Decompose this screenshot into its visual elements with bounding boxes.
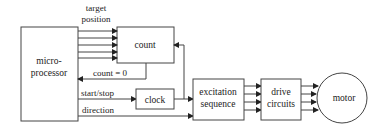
phase-bus-2 xyxy=(301,86,318,110)
target-position-label-line1: target xyxy=(86,3,107,13)
count-label: count xyxy=(134,40,155,50)
excitation-label-line2: sequence xyxy=(201,99,236,109)
microprocessor-label-line2: processor xyxy=(31,68,68,78)
target-position-bus xyxy=(78,31,117,58)
excitation-label-line1: excitation xyxy=(199,87,237,97)
motor-label: motor xyxy=(333,93,357,103)
drive-label-line1: drive xyxy=(271,87,291,97)
count-zero-label: count = 0 xyxy=(93,68,128,78)
excitation-sequence-block: excitation sequence xyxy=(193,79,244,120)
microprocessor-label-line1: micro- xyxy=(36,56,61,66)
clock-output-wires xyxy=(174,45,193,99)
clock-label: clock xyxy=(145,95,166,105)
drive-circuits-block: drive circuits xyxy=(261,79,301,120)
count-zero-signal: count = 0 xyxy=(78,63,146,79)
phase-bus-1 xyxy=(244,86,261,110)
count-block: count xyxy=(117,27,174,63)
clock-block: clock xyxy=(136,89,174,109)
start-stop-signal: start/stop xyxy=(78,88,136,99)
direction-label: direction xyxy=(82,105,114,115)
target-position-label-line2: position xyxy=(81,14,111,24)
block-diagram: target position micro- processor count c… xyxy=(0,0,386,134)
drive-label-line2: circuits xyxy=(267,99,295,109)
microprocessor-block: micro- processor xyxy=(21,27,78,121)
motor-circle: motor xyxy=(317,73,367,123)
start-stop-label: start/stop xyxy=(81,88,114,98)
